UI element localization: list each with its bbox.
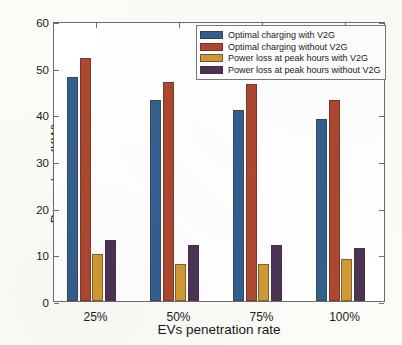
bar: [233, 110, 244, 301]
bar: [316, 119, 327, 301]
y-tick-mark: [54, 210, 59, 211]
y-tick-label: 30: [36, 157, 49, 169]
y-tick-mark-right: [379, 256, 384, 257]
bar: [67, 77, 78, 301]
legend-swatch-icon: [200, 43, 223, 51]
y-tick-mark: [54, 163, 59, 164]
y-tick-label: 60: [36, 17, 49, 29]
chart-page: Power loss (KW) 010203040506025%50%75%10…: [0, 0, 402, 345]
y-tick-mark-right: [379, 116, 384, 117]
y-tick-mark-right: [379, 303, 384, 304]
y-tick-mark-right: [379, 210, 384, 211]
bar: [354, 248, 365, 301]
legend-swatch-icon: [200, 31, 223, 39]
y-tick-mark: [54, 70, 59, 71]
y-tick-label: 50: [36, 64, 49, 76]
y-tick-mark-right: [379, 23, 384, 24]
y-tick-mark-right: [379, 163, 384, 164]
bar: [175, 264, 186, 301]
legend-label: Optimal charging without V2G: [228, 42, 348, 52]
x-tick-mark-top: [96, 23, 97, 28]
x-axis-title: EVs penetration rate: [53, 322, 385, 337]
legend-swatch-icon: [200, 54, 223, 62]
bar: [246, 84, 257, 301]
legend-label: Power loss at peak hours without V2G: [228, 65, 381, 75]
x-tick-mark-top: [179, 23, 180, 28]
bar: [105, 240, 116, 301]
bar: [341, 259, 352, 301]
y-tick-label: 20: [36, 204, 49, 216]
y-tick-mark: [54, 256, 59, 257]
y-tick-label: 40: [36, 110, 49, 122]
bar: [92, 254, 103, 301]
bar: [80, 58, 91, 301]
bar: [258, 264, 269, 301]
bar: [329, 100, 340, 301]
y-tick-label: 0: [43, 297, 49, 309]
bar: [271, 245, 282, 301]
legend-item: Optimal charging without V2G: [200, 41, 381, 52]
legend-item: Optimal charging with V2G: [200, 30, 381, 41]
legend-item: Power loss at peak hours without V2G: [200, 64, 381, 75]
bar: [150, 100, 161, 301]
legend-label: Power loss at peak hours with V2G: [228, 53, 368, 63]
legend-label: Optimal charging with V2G: [228, 30, 335, 40]
chart-legend: Optimal charging with V2GOptimal chargin…: [196, 25, 386, 80]
y-tick-mark: [54, 303, 59, 304]
y-tick-label: 10: [36, 250, 49, 262]
legend-item: Power loss at peak hours with V2G: [200, 53, 381, 64]
legend-swatch-icon: [200, 66, 223, 74]
y-tick-mark: [54, 23, 59, 24]
y-tick-mark: [54, 116, 59, 117]
bar: [188, 245, 199, 301]
bar: [163, 82, 174, 301]
